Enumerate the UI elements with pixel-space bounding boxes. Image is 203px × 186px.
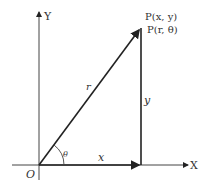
- cartesian-point-label: P(x, y): [145, 11, 177, 22]
- radius-line: [39, 30, 139, 165]
- polar-coordinate-diagram: Y X O P(x, y) P(r, θ) r y x θ: [0, 0, 203, 186]
- y-segment-label: y: [143, 94, 151, 107]
- angle-label: θ: [63, 150, 68, 159]
- radius-label: r: [86, 81, 92, 92]
- y-axis-label: Y: [43, 10, 52, 23]
- origin-label: O: [26, 168, 35, 181]
- x-axis-label: X: [190, 159, 198, 172]
- x-segment-label: x: [98, 151, 105, 164]
- polar-point-label: P(r, θ): [147, 24, 178, 35]
